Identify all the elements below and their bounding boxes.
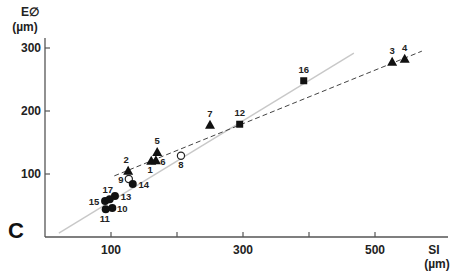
data-points: 1234567891011131415171216 <box>89 42 410 225</box>
y-axis-label: E∅ <box>21 5 39 19</box>
panel-label: C <box>8 218 24 243</box>
triangle-marker <box>123 166 133 175</box>
point-label: 1 <box>148 164 154 175</box>
point-label: 17 <box>102 184 113 195</box>
data-point-10: 10 <box>108 203 127 214</box>
data-point-7: 7 <box>205 108 215 129</box>
point-label: 16 <box>298 64 309 75</box>
y-tick-label: 300 <box>21 41 41 55</box>
x-tick-label: 300 <box>233 243 253 257</box>
filled-circle-marker <box>108 204 116 212</box>
point-label: 14 <box>138 179 149 190</box>
point-label: 12 <box>234 107 245 118</box>
x-axis-unit: (µm) <box>424 257 450 271</box>
point-label: 9 <box>118 174 123 185</box>
triangle-marker <box>387 57 397 66</box>
data-point-11: 11 <box>100 205 111 224</box>
triangle-marker <box>205 120 215 129</box>
data-point-3: 3 <box>387 45 397 66</box>
point-label: 4 <box>402 42 408 53</box>
data-point-4: 4 <box>400 42 410 63</box>
triangle-marker <box>400 54 410 63</box>
point-label: 13 <box>121 191 132 202</box>
filled-circle-marker <box>106 195 114 203</box>
data-point-8: 8 <box>177 152 184 170</box>
y-tick-label: 100 <box>21 167 41 181</box>
y-axis-unit: (µm) <box>12 20 38 34</box>
square-marker <box>300 77 307 84</box>
point-label: 7 <box>207 108 212 119</box>
point-label: 5 <box>155 135 161 146</box>
x-tick-label: 500 <box>365 243 385 257</box>
point-label: 6 <box>160 156 165 167</box>
data-point-6: 6 <box>151 155 166 167</box>
point-label: 15 <box>89 196 100 207</box>
regression-solid-line <box>59 53 354 233</box>
point-label: 10 <box>117 203 128 214</box>
point-label: 2 <box>124 154 129 165</box>
filled-circle-marker <box>129 180 137 188</box>
data-point-5: 5 <box>152 135 162 156</box>
point-label: 8 <box>178 159 183 170</box>
point-label: 3 <box>390 45 395 56</box>
y-tick-label: 200 <box>21 104 41 118</box>
point-label: 11 <box>100 213 111 224</box>
filled-circle-marker <box>102 205 110 213</box>
square-marker <box>236 121 243 128</box>
x-axis-label: SI <box>428 243 439 257</box>
scatter-chart: 100300500100200300 123456789101113141517… <box>0 0 464 279</box>
ticks: 100300500100200300 <box>21 41 385 257</box>
triangle-marker <box>152 147 162 156</box>
x-tick-label: 100 <box>101 243 121 257</box>
data-point-13: 13 <box>111 191 131 202</box>
